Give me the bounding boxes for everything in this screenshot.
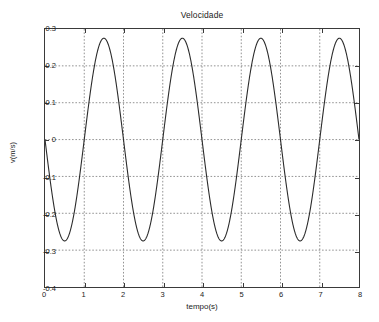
x-tick-mark-top (85, 29, 86, 33)
x-tick-mark (124, 283, 125, 287)
y-axis-tick-label: -0.1 (16, 172, 56, 181)
y-axis-tick-label: 0 (16, 135, 56, 144)
y-tick-mark-right (355, 103, 359, 104)
x-tick-mark-top (322, 29, 323, 33)
x-tick-mark (85, 283, 86, 287)
y-axis-tick-label: 0.1 (16, 98, 56, 107)
y-axis-tick-label: 0.3 (16, 24, 56, 33)
x-tick-mark (282, 283, 283, 287)
plot-area (44, 28, 360, 288)
y-axis-label: v(m/s) (8, 123, 17, 183)
x-tick-mark-top (203, 29, 204, 33)
y-tick-mark-right (355, 215, 359, 216)
x-axis-tick-label: 3 (148, 290, 178, 299)
x-tick-mark-top (124, 29, 125, 33)
y-tick-mark-right (355, 178, 359, 179)
x-axis-tick-label: 7 (306, 290, 336, 299)
series-line-v (45, 38, 359, 241)
x-axis-tick-label: 2 (108, 290, 138, 299)
x-axis-tick-label: 4 (187, 290, 217, 299)
x-axis-tick-label: 5 (227, 290, 257, 299)
x-axis-tick-label: 0 (29, 290, 59, 299)
x-tick-mark (203, 283, 204, 287)
x-tick-mark (243, 283, 244, 287)
y-tick-mark-right (355, 252, 359, 253)
x-tick-mark-top (282, 29, 283, 33)
y-axis-tick-label: 0.2 (16, 61, 56, 70)
figure-canvas: Velocidade 0.30.20.10-0.1-0.2-0.3-0.4 01… (0, 0, 379, 322)
y-tick-mark-right (355, 140, 359, 141)
y-tick-mark-right (355, 66, 359, 67)
x-axis-tick-label: 1 (69, 290, 99, 299)
y-axis-tick-label: -0.3 (16, 246, 56, 255)
y-axis-tick-label: -0.2 (16, 209, 56, 218)
chart-title: Velocidade (44, 10, 360, 20)
x-tick-mark-top (243, 29, 244, 33)
x-tick-mark (322, 283, 323, 287)
x-tick-mark (164, 283, 165, 287)
x-axis-tick-label: 8 (345, 290, 375, 299)
x-tick-mark-top (164, 29, 165, 33)
x-axis-tick-label: 6 (266, 290, 296, 299)
data-curve (45, 29, 359, 287)
x-axis-label: tempo(s) (44, 302, 360, 311)
